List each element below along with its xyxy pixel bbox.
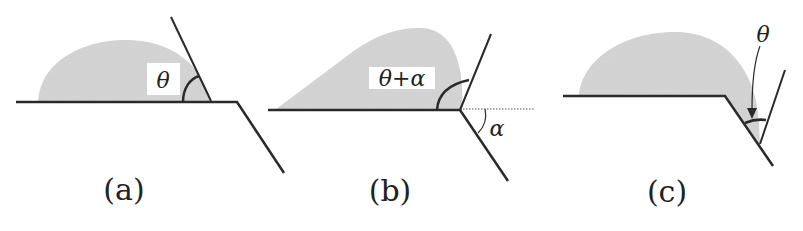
contact-angle-diagram: θ (a) θ+α α (b) θ (c) bbox=[0, 0, 803, 231]
caption-a: (a) bbox=[103, 172, 144, 207]
caption-c: (c) bbox=[647, 174, 687, 209]
panel-c: θ (c) bbox=[563, 22, 785, 209]
angle-label-c: θ bbox=[756, 22, 769, 47]
caption-b: (b) bbox=[369, 173, 412, 208]
edge-angle-label-b: α bbox=[490, 116, 505, 141]
surface-a bbox=[16, 102, 284, 173]
panel-a: θ (a) bbox=[16, 17, 284, 207]
angle-label-b: θ+α bbox=[379, 66, 426, 91]
tangent-line-c bbox=[760, 70, 785, 144]
angle-label-a: θ bbox=[156, 68, 169, 93]
panel-b: θ+α α (b) bbox=[268, 28, 535, 208]
droplet-c bbox=[579, 32, 760, 145]
edge-angle-arc-b bbox=[478, 109, 486, 133]
tangent-line-b bbox=[460, 34, 491, 110]
